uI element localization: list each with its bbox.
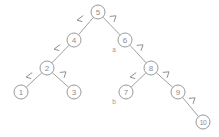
node-label: 8 — [149, 64, 154, 73]
tree-edge — [131, 73, 145, 87]
tree-node[interactable]: 7 — [119, 85, 133, 99]
left-chevron-icon — [54, 45, 60, 51]
tree-node[interactable]: 1 — [14, 85, 28, 99]
edge-markers-group — [26, 16, 195, 104]
right-chevron-icon — [60, 72, 66, 78]
tree-node[interactable]: 2 — [40, 61, 54, 75]
edge-annotation-label: b — [112, 98, 116, 105]
node-label: 4 — [72, 36, 77, 45]
left-chevron-icon — [130, 73, 136, 79]
annotations-group: ab — [112, 46, 116, 105]
tree-edge — [53, 73, 69, 87]
tree-node[interactable]: 5 — [91, 5, 105, 19]
node-label: 2 — [45, 64, 50, 73]
edge-annotation-label: a — [112, 46, 116, 53]
tree-edge — [79, 18, 93, 35]
left-chevron-icon — [77, 16, 83, 22]
tree-edge — [183, 98, 198, 116]
node-label: 6 — [123, 36, 128, 45]
tree-node[interactable]: 10 — [196, 115, 210, 129]
nodes-group: 54628137910 — [14, 5, 210, 129]
left-chevron-icon — [26, 73, 32, 79]
tree-edge — [130, 45, 146, 62]
node-label: 5 — [96, 8, 101, 17]
node-label: 7 — [124, 88, 129, 97]
node-label: 9 — [176, 88, 181, 97]
node-label: 10 — [200, 119, 207, 126]
tree-node[interactable]: 4 — [67, 33, 81, 47]
tree-edge — [157, 73, 173, 87]
binary-tree-diagram: 54628137910 ab — [0, 0, 219, 137]
tree-node[interactable]: 6 — [118, 33, 132, 47]
tree-node[interactable]: 8 — [144, 61, 158, 75]
tree-edge — [103, 17, 120, 34]
right-chevron-icon — [137, 45, 143, 51]
right-chevron-icon — [110, 16, 116, 22]
tree-node[interactable]: 9 — [171, 85, 185, 99]
tree-node[interactable]: 3 — [67, 85, 81, 99]
node-label: 1 — [19, 88, 24, 97]
right-chevron-icon — [189, 98, 195, 104]
right-chevron-icon — [163, 72, 169, 78]
node-label: 3 — [72, 88, 77, 97]
tree-canvas: 54628137910 ab — [0, 0, 219, 137]
